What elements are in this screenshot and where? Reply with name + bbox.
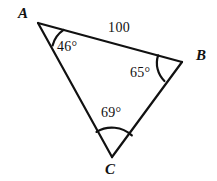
vertex-label-A: A: [18, 6, 28, 21]
angle-measure-label-B: 65°: [130, 66, 150, 80]
vertex-label-B: B: [196, 48, 206, 63]
angle-arc-C: [97, 128, 132, 136]
angle-arc-B: [157, 55, 165, 81]
triangle-figure: A B C 100 46° 65° 69°: [0, 0, 217, 181]
angle-measure-label-A: 46°: [57, 40, 77, 54]
vertex-label-C: C: [105, 162, 115, 177]
side-length-label-AB: 100: [108, 21, 130, 35]
angle-measure-label-C: 69°: [101, 106, 121, 120]
